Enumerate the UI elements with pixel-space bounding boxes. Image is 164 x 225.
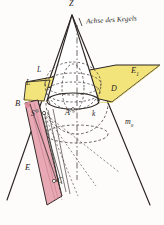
label-point-s: S <box>31 110 35 118</box>
label-point-l-upper: L <box>37 66 41 74</box>
point-marker-c <box>52 179 55 182</box>
cone-right-generator <box>72 15 150 205</box>
axis-leader-line <box>79 18 82 26</box>
label-curve-k: k <box>92 110 95 118</box>
label-plane-e1-subscript: 1 <box>136 71 139 77</box>
label-point-b: B <box>15 99 20 108</box>
label-plane-e1: E1 <box>131 66 139 77</box>
label-line-m0-subscript: 0 <box>131 123 133 128</box>
point-marker-s <box>36 110 38 112</box>
label-line-m0: m0 <box>125 118 133 129</box>
label-point-l-lower: L <box>26 79 30 87</box>
label-point-c: C <box>57 177 62 185</box>
label-plane-e: E <box>25 163 30 172</box>
label-point-a: A <box>65 109 70 117</box>
point-marker-sprime <box>42 111 45 114</box>
point-marker-a <box>72 108 75 111</box>
cone-section-diagram: Z Achse des Kegels E1 L L D B A k S m0 E… <box>0 0 164 225</box>
label-apex-z: Z <box>69 0 73 8</box>
diagram-canvas <box>0 0 164 225</box>
label-point-d: D <box>111 85 117 93</box>
